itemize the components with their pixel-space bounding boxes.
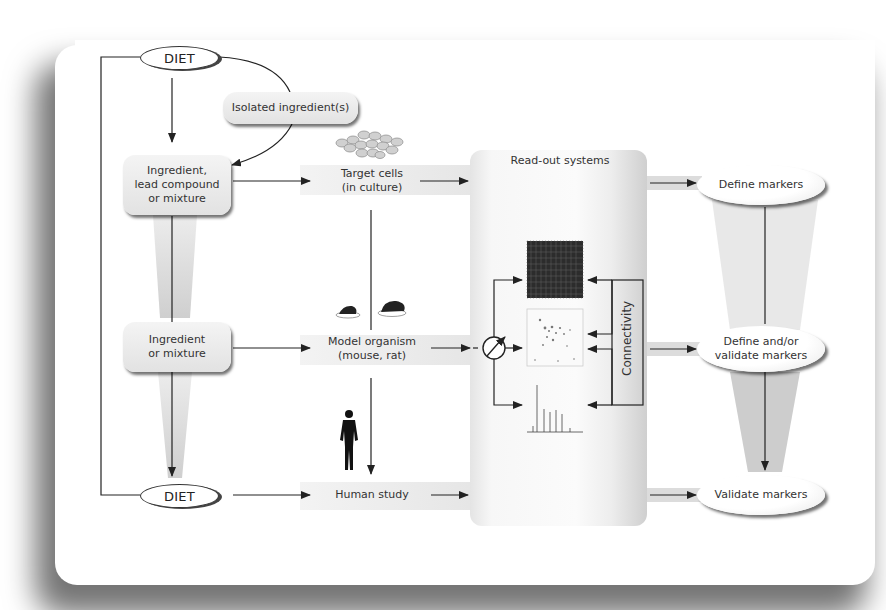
model-organism-label: Model organism(mouse, rat): [318, 335, 426, 363]
connectivity-label: Connectivity: [620, 306, 634, 376]
ingredient-mixture-node: Ingredientor mixture: [123, 322, 231, 372]
cell-cluster-icon: [336, 131, 403, 159]
target-cells-label: Target cells(in culture): [318, 167, 426, 195]
diet-node-bottom: DIET: [140, 484, 219, 508]
isolated-ingredients-node: Isolated ingredient(s): [223, 92, 358, 124]
define-validate-markers-node: Define and/orvalidate markers: [697, 326, 825, 372]
diagram-lines: [0, 0, 886, 610]
human-silhouette-icon: [340, 410, 358, 470]
microarray-icon: [527, 241, 583, 298]
diet-node-top: DIET: [140, 46, 219, 70]
validate-markers-node: Validate markers: [697, 475, 825, 515]
2d-gel-icon: [527, 309, 583, 366]
readout-systems-label: Read-out systems: [490, 154, 630, 168]
human-study-label: Human study: [318, 488, 426, 502]
define-markers-node: Define markers: [697, 165, 825, 205]
ingredient-lead-compound-node: Ingredient,lead compoundor mixture: [123, 155, 231, 215]
mass-spectrum-icon: [527, 385, 583, 432]
